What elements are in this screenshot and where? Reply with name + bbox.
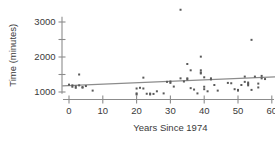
x-tick-label: 60 (267, 105, 275, 116)
y-tick-label: 2000 (34, 51, 55, 62)
x-tick-label: 0 (66, 105, 71, 116)
data-point (247, 84, 249, 86)
y-tick-label: 3000 (34, 16, 55, 27)
data-point (227, 82, 229, 84)
data-point (251, 89, 253, 91)
data-point (200, 69, 202, 71)
data-point (240, 84, 242, 86)
data-point (190, 87, 192, 89)
x-axis: 0102030405060 (63, 96, 275, 116)
data-point (244, 76, 246, 78)
x-tick-label: 40 (199, 105, 210, 116)
data-point (146, 93, 148, 95)
data-point (234, 88, 236, 90)
x-tick-label: 30 (165, 105, 176, 116)
y-tick-label: 1000 (34, 86, 55, 97)
data-point (78, 84, 80, 86)
data-point (217, 90, 219, 92)
data-point (261, 77, 263, 79)
data-point (264, 78, 266, 80)
data-point (139, 87, 141, 89)
data-point (85, 85, 87, 87)
regression-line (62, 77, 275, 86)
data-point (213, 84, 215, 86)
data-point (68, 84, 70, 86)
data-point (203, 76, 205, 78)
data-point (142, 77, 144, 79)
data-point (186, 63, 188, 65)
data-point (200, 72, 202, 74)
data-point (190, 69, 192, 71)
data-point (183, 81, 185, 83)
data-point (251, 39, 253, 41)
data-point (78, 74, 80, 76)
data-point (142, 88, 144, 90)
data-point (82, 87, 84, 89)
data-point (196, 92, 198, 94)
data-points (68, 9, 266, 96)
data-point (180, 9, 182, 11)
data-point (149, 93, 151, 95)
data-point (257, 86, 259, 88)
data-point (156, 90, 158, 92)
data-point (71, 86, 73, 88)
scatter-chart: 100020003000 0102030405060 Years Since 1… (0, 0, 275, 143)
data-point (180, 77, 182, 79)
data-point (166, 81, 168, 83)
data-point (210, 78, 212, 80)
trend-line (62, 77, 275, 86)
y-axis-title: Time (minutes) (7, 24, 18, 87)
data-point (200, 56, 202, 58)
data-point (244, 81, 246, 83)
data-point (261, 75, 263, 77)
data-point (136, 93, 138, 95)
data-point (163, 92, 165, 94)
x-tick-label: 20 (131, 105, 142, 116)
data-point (257, 83, 259, 85)
data-point (186, 78, 188, 80)
plot-area: 100020003000 0102030405060 Years Since 1… (0, 0, 275, 143)
y-axis: 100020003000 (34, 16, 65, 97)
data-point (203, 86, 205, 88)
data-point (153, 93, 155, 95)
data-point (230, 82, 232, 84)
data-point (207, 90, 209, 92)
data-point (237, 90, 239, 92)
data-point (193, 89, 195, 91)
data-point (203, 88, 205, 90)
x-tick-label: 50 (233, 105, 244, 116)
data-point (75, 87, 77, 89)
data-point (169, 82, 171, 84)
data-point (254, 76, 256, 78)
data-point (173, 86, 175, 88)
data-point (136, 88, 138, 90)
data-point (92, 90, 94, 92)
x-tick-label: 10 (98, 105, 109, 116)
x-axis-title: Years Since 1974 (133, 122, 207, 133)
axis-labels: Years Since 1974Time (minutes) (7, 24, 207, 133)
